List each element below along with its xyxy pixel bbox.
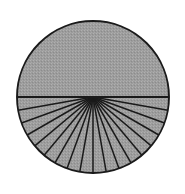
- figure-root: Sectored circle diagram A shaded circle …: [0, 0, 185, 194]
- sectored-circle-diagram: Sectored circle diagram A shaded circle …: [0, 0, 185, 194]
